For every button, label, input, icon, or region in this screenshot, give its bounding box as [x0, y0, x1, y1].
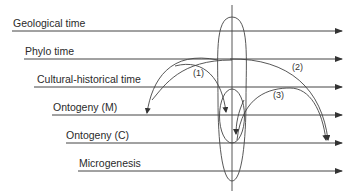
timeline-label-microgenesis: Microgenesis [79, 158, 141, 169]
arc-label-2: (2) [292, 63, 303, 72]
timeline-label-geological: Geological time [13, 18, 85, 29]
arc-label-1: (1) [193, 69, 204, 78]
arc-1 [147, 58, 232, 113]
diagram-canvas [0, 0, 350, 196]
timeline-label-cultural: Cultural-historical time [37, 74, 141, 85]
timeline-label-ontogeny-m: Ontogeny (M) [53, 102, 117, 113]
timeline-label-phylo: Phylo time [25, 46, 74, 57]
timeline-label-ontogeny-c: Ontogeny (C) [66, 130, 129, 141]
arc-label-3: (3) [273, 91, 284, 100]
